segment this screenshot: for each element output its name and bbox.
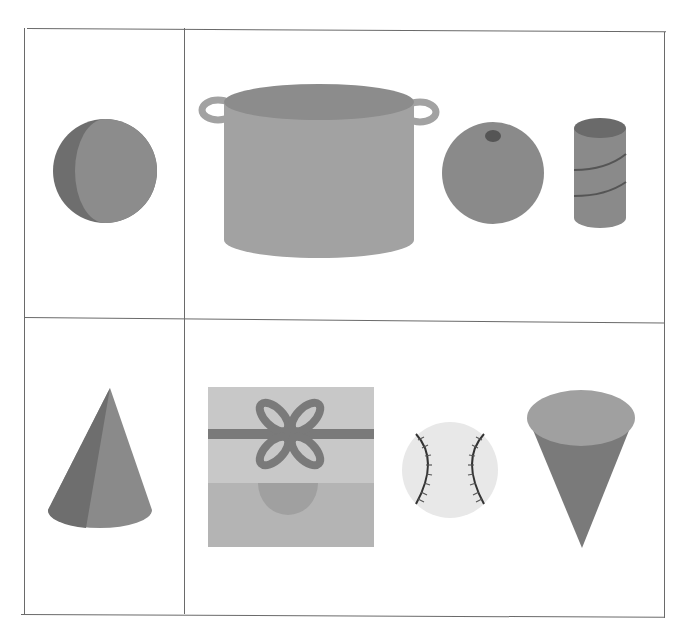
table-column-divider bbox=[184, 28, 185, 614]
cone-icon bbox=[46, 386, 156, 542]
table-border-left bbox=[24, 28, 25, 614]
cooking-pot-icon bbox=[196, 80, 442, 264]
sphere-icon bbox=[50, 116, 160, 226]
table-row-divider bbox=[24, 317, 664, 324]
table-border-top bbox=[27, 28, 666, 32]
orange-icon bbox=[440, 120, 546, 226]
baseball-icon bbox=[400, 420, 500, 520]
gift-box-icon bbox=[208, 387, 374, 547]
table-border-bottom bbox=[21, 614, 664, 618]
ice-cream-cone-icon bbox=[524, 388, 638, 552]
tin-can-icon bbox=[570, 114, 630, 234]
table-border-right bbox=[664, 32, 665, 618]
